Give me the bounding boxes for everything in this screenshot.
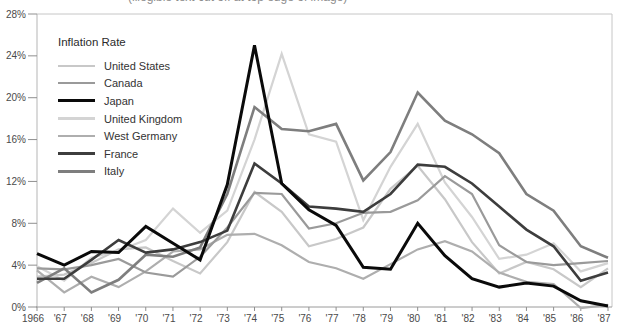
legend-title: Inflation Rate <box>58 36 182 48</box>
x-tick-label: '71 <box>162 313 175 324</box>
legend-item-japan: Japan <box>58 92 182 110</box>
x-tick-label: '82 <box>462 313 475 324</box>
legend-label-canada: Canada <box>104 77 143 89</box>
legend-label-united-kingdom: United Kingdom <box>104 113 182 125</box>
y-tick-label: 16% <box>6 134 26 145</box>
y-tick-label: 12% <box>6 176 26 187</box>
legend-swatch-italy <box>58 170 95 173</box>
x-tick-label: '80 <box>407 313 420 324</box>
x-tick-label: '84 <box>516 313 529 324</box>
x-tick-label: '83 <box>489 313 502 324</box>
legend-item-france: France <box>58 145 182 163</box>
y-tick-label: 20% <box>6 92 26 103</box>
x-tick-label: '77 <box>326 313 339 324</box>
y-tick-label: 0% <box>12 302 27 313</box>
legend-rows: United StatesCanadaJapanUnited KingdomWe… <box>58 57 182 180</box>
x-tick-label: '78 <box>353 313 366 324</box>
x-tick-label: '81 <box>434 313 447 324</box>
x-tick-label: '70 <box>135 313 148 324</box>
x-tick-label: '86 <box>570 313 583 324</box>
legend-swatch-france <box>58 152 95 155</box>
legend-swatch-west-germany <box>58 135 95 137</box>
legend-item-united-states: United States <box>58 57 182 75</box>
legend-item-italy: Italy <box>58 163 182 181</box>
legend-swatch-united-states <box>58 65 95 67</box>
chart-figure: (illegible text cut off at top edge of i… <box>0 0 619 333</box>
x-tick-label: '68 <box>81 313 94 324</box>
x-tick-label: '87 <box>597 313 610 324</box>
legend-swatch-canada <box>58 82 95 84</box>
y-tick-label: 8% <box>12 218 27 229</box>
legend-label-italy: Italy <box>104 165 124 177</box>
x-tick-label: '79 <box>380 313 393 324</box>
legend-item-west-germany: West Germany <box>58 127 182 145</box>
legend-label-united-states: United States <box>104 60 170 72</box>
x-tick-label: '85 <box>543 313 556 324</box>
y-tick-label: 24% <box>6 50 26 61</box>
legend-label-france: France <box>104 148 138 160</box>
x-tick-label: 1966 <box>22 313 45 324</box>
x-tick-label: '74 <box>244 313 257 324</box>
y-tick-label: 4% <box>12 260 27 271</box>
legend-label-west-germany: West Germany <box>104 130 177 142</box>
legend-swatch-united-kingdom <box>58 117 95 119</box>
chart-legend: Inflation Rate United StatesCanadaJapanU… <box>58 36 182 180</box>
x-tick-label: '67 <box>54 313 67 324</box>
x-tick-label: '76 <box>298 313 311 324</box>
x-tick-label: '73 <box>217 313 230 324</box>
x-tick-label: '72 <box>190 313 203 324</box>
x-tick-label: '75 <box>271 313 284 324</box>
legend-swatch-japan <box>58 99 95 102</box>
x-tick-label: '69 <box>108 313 121 324</box>
legend-label-japan: Japan <box>104 95 134 107</box>
y-tick-label: 28% <box>6 9 26 20</box>
series-line-west-germany <box>37 234 608 308</box>
legend-item-canada: Canada <box>58 75 182 93</box>
legend-item-united-kingdom: United Kingdom <box>58 110 182 128</box>
